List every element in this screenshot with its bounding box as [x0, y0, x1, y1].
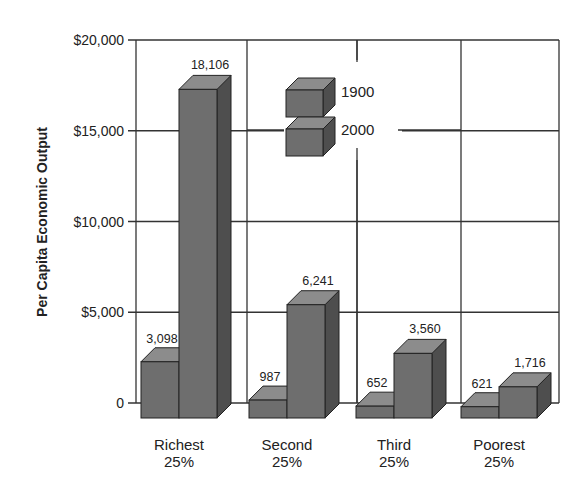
- value-label-1900: 3,098: [146, 332, 177, 346]
- x-category-label: 25%: [484, 453, 514, 470]
- x-category-label: 25%: [164, 453, 194, 470]
- legend-swatch: [286, 117, 335, 156]
- bar: [394, 339, 446, 418]
- y-tick-label: $15,000: [73, 123, 124, 139]
- y-tick-label: 0: [116, 395, 124, 411]
- value-label-1900: 621: [472, 377, 493, 391]
- bar: [179, 75, 231, 418]
- bar: [287, 291, 339, 418]
- x-axis-categories: Richest25%Second25%Third25%Poorest25%: [154, 436, 526, 470]
- value-label-2000: 3,560: [409, 322, 440, 336]
- x-category-label: 25%: [272, 453, 302, 470]
- bar: [499, 373, 551, 418]
- x-category-label: Third: [377, 436, 411, 453]
- value-label-1900: 652: [367, 376, 388, 390]
- bar-chart: 0$5,000$10,000$15,000$20,000 Per Capita …: [0, 0, 588, 498]
- x-category-label: 25%: [379, 453, 409, 470]
- value-label-2000: 6,241: [302, 274, 333, 288]
- x-category-label: Richest: [154, 436, 205, 453]
- x-category-label: Second: [262, 436, 313, 453]
- value-label-2000: 18,106: [191, 58, 229, 72]
- y-axis-ticks: 0$5,000$10,000$15,000$20,000: [73, 32, 124, 411]
- x-category-label: Poorest: [473, 436, 526, 453]
- value-label-2000: 1,716: [514, 356, 545, 370]
- legend-label-1900: 1900: [341, 83, 374, 100]
- y-tick-label: $10,000: [73, 214, 124, 230]
- y-tick-label: $20,000: [73, 32, 124, 48]
- legend-label-2000: 2000: [341, 121, 374, 138]
- y-axis-label: Per Capita Economic Output: [34, 127, 50, 317]
- legend-swatch: [286, 78, 335, 117]
- y-tick-label: $5,000: [81, 304, 124, 320]
- value-label-1900: 987: [260, 370, 281, 384]
